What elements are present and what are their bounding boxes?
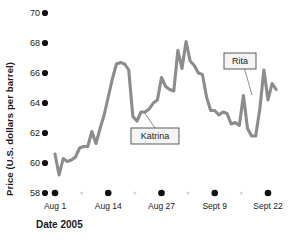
- y-tick-label: 64: [30, 98, 40, 108]
- x-tick-dot: [265, 190, 272, 197]
- y-axis-title: Price (U.S. dollars per barrel): [4, 62, 15, 196]
- y-tick-labels: 58606264666870: [30, 8, 40, 198]
- y-tick-dot: [42, 160, 48, 166]
- x-tick-label: Aug 27: [148, 201, 175, 211]
- x-tick-dot: [158, 190, 165, 197]
- y-tick-dot: [42, 100, 48, 106]
- x-minor-tick-dot: [133, 191, 136, 194]
- x-axis-title: Date 2005: [36, 219, 83, 230]
- annotation-label: Katrina: [141, 131, 170, 141]
- y-tick-dots: [42, 10, 48, 196]
- x-tick-dot: [52, 190, 59, 197]
- y-tick-label: 70: [30, 8, 40, 18]
- chart-svg: Price (U.S. dollars per barrel) 58606264…: [0, 0, 294, 240]
- y-tick-label: 68: [30, 38, 40, 48]
- y-tick-label: 58: [30, 188, 40, 198]
- x-tick-label: Aug 1: [44, 201, 66, 211]
- x-tick-dot: [211, 190, 218, 197]
- y-tick-label: 60: [30, 158, 40, 168]
- y-tick-label: 66: [30, 68, 40, 78]
- x-tick-label: Sept 9: [202, 201, 227, 211]
- y-tick-dot: [42, 40, 48, 46]
- x-tick-label: Aug 14: [95, 201, 122, 211]
- x-tick-dots: [52, 190, 272, 197]
- y-tick-label: 62: [30, 128, 40, 138]
- x-minor-tick-dot: [187, 191, 190, 194]
- oil-price-chart: Price (U.S. dollars per barrel) 58606264…: [0, 0, 294, 240]
- annotation-leader-line: [144, 112, 155, 128]
- y-tick-dot: [42, 10, 48, 16]
- x-tick-labels: Aug 1Aug 14Aug 27Sept 9Sept 22: [44, 201, 283, 211]
- y-tick-dot: [42, 70, 48, 76]
- x-minor-tick-dot: [240, 191, 243, 194]
- x-minor-tick-dot: [80, 191, 83, 194]
- y-tick-dot: [42, 130, 48, 136]
- annotation-rita: Rita: [224, 53, 256, 95]
- annotation-label: Rita: [232, 56, 248, 66]
- x-tick-dot: [105, 190, 112, 197]
- y-tick-dot: [42, 190, 48, 196]
- x-tick-label: Sept 22: [253, 201, 283, 211]
